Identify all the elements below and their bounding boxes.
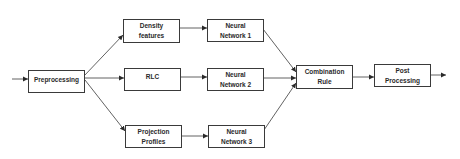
node-neural-network-2: Neural Network 2 bbox=[207, 68, 264, 91]
edge-preprocessing-density bbox=[84, 35, 123, 76]
node-preprocessing: Preprocessing bbox=[28, 70, 85, 93]
node-combination-rule: Combination Rule bbox=[296, 65, 353, 89]
edge-nn1-combination bbox=[263, 29, 296, 72]
node-neural-network-1: Neural Network 1 bbox=[207, 19, 264, 42]
edge-nn3-combination bbox=[264, 83, 296, 130]
edge-preprocessing-projection bbox=[85, 80, 125, 131]
node-post-processing: Post Processing bbox=[374, 64, 431, 87]
node-projection-profiles: Projection Profiles bbox=[125, 125, 182, 148]
node-density-features: Density features bbox=[123, 19, 180, 43]
node-rlc: RLC bbox=[124, 68, 181, 91]
node-neural-network-3: Neural Network 3 bbox=[208, 125, 265, 148]
